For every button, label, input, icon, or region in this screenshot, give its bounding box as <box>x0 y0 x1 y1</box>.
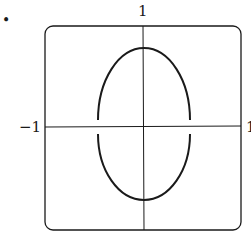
x-min-label: −1 <box>19 120 41 135</box>
y-max-label: 1 <box>138 4 148 19</box>
ellipse-curve-upper <box>98 48 190 120</box>
x-max-label: 1 <box>246 120 251 135</box>
